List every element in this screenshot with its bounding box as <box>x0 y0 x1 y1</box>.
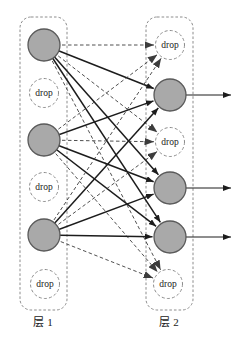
network-diagram-svg: dropdropdropdropdropdrop层 1层 2 <box>0 0 238 344</box>
edge-L1-R2-solid <box>44 45 154 89</box>
drop-node-label: drop <box>36 279 54 289</box>
drop-node-label: drop <box>35 182 53 192</box>
dropout-network-figure: dropdropdropdropdropdrop层 1层 2 <box>0 0 238 344</box>
layer2-panel <box>146 17 193 310</box>
layer2-caption: 层 2 <box>159 316 178 328</box>
edge-L5-R6-dashed <box>44 235 153 278</box>
layer1-caption: 层 1 <box>33 316 52 328</box>
active-node-R2 <box>154 79 186 111</box>
edge-L3-R4-solid <box>44 140 154 182</box>
active-node-R4 <box>154 172 186 204</box>
drop-node-label: drop <box>161 40 179 50</box>
edge-L1-R4-solid <box>44 45 158 175</box>
edge-L5-R4-solid <box>44 194 154 235</box>
active-node-L3 <box>28 124 60 156</box>
drop-node-label: drop <box>161 137 179 147</box>
active-node-L5 <box>28 219 60 251</box>
drop-node-label: drop <box>159 279 177 289</box>
active-node-L1 <box>28 29 60 61</box>
edge-L5-R3-dashed <box>44 152 157 235</box>
drop-node-label: drop <box>35 88 53 98</box>
edge-L3-R6-dashed <box>44 140 158 272</box>
active-node-R5 <box>154 221 186 253</box>
